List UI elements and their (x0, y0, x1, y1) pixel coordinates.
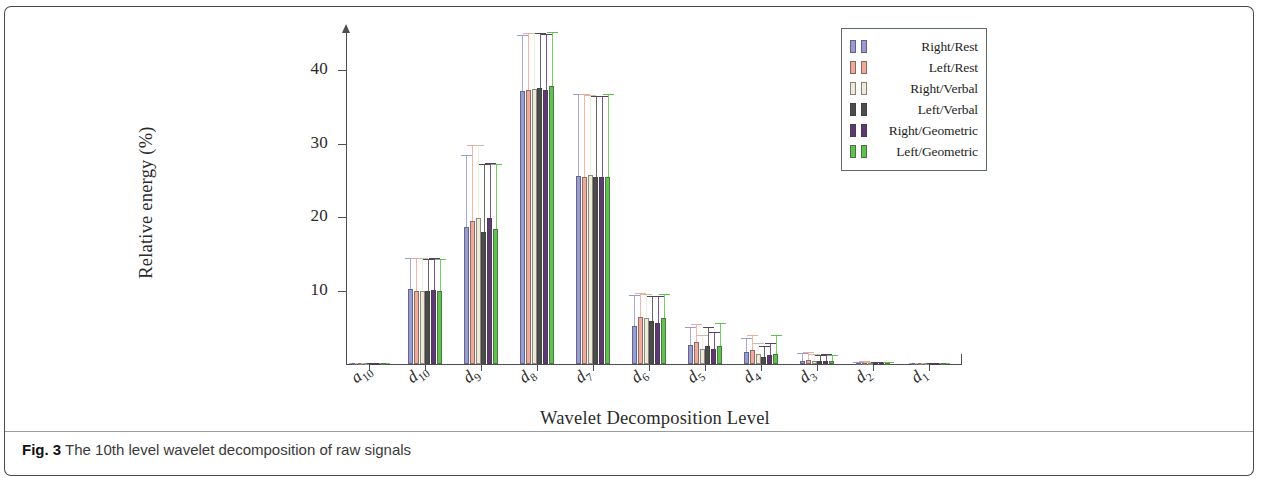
bar-d6-right-verbal (644, 318, 649, 364)
bar-d3-left-rest (806, 360, 811, 364)
error-bar-cap (691, 324, 702, 325)
x-axis-category-label: d7 (571, 363, 595, 389)
bar-d5-right-geometric (711, 349, 716, 364)
legend-swatch (861, 145, 867, 158)
bar-d6-left-geometric (661, 318, 666, 364)
x-axis-category-label: d9 (459, 363, 483, 389)
error-bar-cap (597, 96, 608, 97)
bar-d5-left-rest (694, 342, 699, 364)
wavelet-energy-chart: 10203040 Relative energy (%) Wavelet Dec… (0, 0, 1261, 430)
bar-d4-left-rest (750, 350, 755, 364)
error-bar-cap (741, 338, 752, 339)
y-axis-tick (338, 70, 346, 71)
error-bar-cap (517, 35, 528, 36)
legend-swatch (861, 124, 867, 137)
legend-label: Right/Rest (876, 39, 978, 55)
y-axis-tick-label: 40 (288, 59, 328, 79)
bar-d2-right-geometric (879, 363, 884, 365)
bar-d3-right-geometric (823, 361, 828, 364)
bar-d8-right-geometric (543, 90, 548, 364)
x-axis-category-label: d8 (515, 363, 539, 389)
error-bar-cap (461, 155, 472, 156)
error-bar-cap (653, 296, 664, 297)
x-axis-category-label: d4 (739, 363, 763, 389)
bar-d8-left-verbal (537, 88, 542, 364)
error-bar-cap (765, 343, 776, 344)
error-bar-cap (547, 32, 558, 33)
legend-swatch-pair (850, 103, 876, 116)
bar-d10-left-geometric (437, 291, 442, 365)
legend-item-left-geometric: Left/Geometric (850, 141, 978, 162)
legend-swatch-pair (850, 145, 876, 158)
figure-caption: Fig. 3 The 10th level wavelet decomposit… (22, 441, 411, 458)
x-axis-tick (593, 364, 594, 371)
legend-label: Left/Geometric (876, 144, 978, 160)
bar-d7-right-rest (576, 176, 581, 364)
x-axis-tick (705, 364, 706, 371)
x-axis-category-label: d3 (795, 363, 819, 389)
bar-d2-left-geometric (885, 363, 890, 365)
figure-page: 10203040 Relative energy (%) Wavelet Dec… (0, 0, 1261, 478)
bar-d5-left-verbal (705, 346, 710, 364)
bar-d4-right-verbal (756, 354, 761, 364)
bar-d7-right-verbal (588, 175, 593, 364)
bar-d9-left-rest (470, 221, 475, 364)
legend-swatch (850, 40, 856, 53)
bar-d6-left-rest (638, 317, 643, 364)
y-axis-title: Relative energy (%) (136, 53, 157, 353)
legend-swatch (850, 103, 856, 116)
error-bar-cap (541, 34, 552, 35)
error-bar-cap (473, 145, 484, 146)
x-axis-tick (761, 364, 762, 371)
legend-swatch (861, 82, 867, 95)
error-bar-cap (697, 335, 708, 336)
legend-label: Right/Geometric (876, 123, 978, 139)
legend-item-right-rest: Right/Rest (850, 36, 978, 57)
bar-d9-right-verbal (476, 218, 481, 364)
y-axis-tick (338, 217, 346, 218)
error-bar-cap (629, 295, 640, 296)
bar-d5-right-rest (688, 345, 693, 364)
y-axis-tick-label: 10 (288, 280, 328, 300)
legend-swatch (861, 61, 867, 74)
error-bar-cap (603, 94, 614, 95)
figure-caption-label: Fig. 3 (22, 441, 61, 458)
bar-d10-right-geometric (431, 290, 436, 364)
x-axis-tick (873, 364, 874, 371)
bar-d6-right-geometric (655, 323, 660, 364)
figure-caption-text: The 10th level wavelet decomposition of … (65, 441, 411, 458)
bar-d5-left-geometric (717, 346, 722, 364)
error-bar-cap (685, 327, 696, 328)
bar-d3-right-rest (800, 361, 805, 364)
x-axis-category-label: d1 (907, 363, 931, 389)
legend-swatch-pair (850, 40, 876, 53)
y-axis-tick (338, 144, 346, 145)
legend-item-left-verbal: Left/Verbal (850, 99, 978, 120)
y-axis-line (346, 30, 347, 365)
error-bar-cap (747, 335, 758, 336)
x-axis-tick (649, 364, 650, 371)
legend-swatch (850, 61, 856, 74)
bar-d2-left-rest (862, 363, 867, 365)
bar-d7-left-rest (582, 177, 587, 364)
x-axis-category-label: d6 (627, 363, 651, 389)
bar-d1-left-geometric (941, 363, 946, 365)
bar-d10-left-rest (414, 291, 419, 365)
x-axis-tick (817, 364, 818, 371)
error-bar-cap (435, 259, 446, 260)
bar-d9-right-rest (464, 227, 469, 364)
error-bar-cap (709, 332, 720, 333)
error-bar-cap (753, 343, 764, 344)
bar-d10-right-rest (408, 289, 413, 364)
bar-d8-left-geometric (549, 86, 554, 364)
bar-d8-left-rest (526, 90, 531, 364)
legend-swatch (861, 103, 867, 116)
bar-d10-right-verbal (420, 291, 425, 364)
legend-label: Left/Rest (876, 60, 978, 76)
y-axis-tick (338, 291, 346, 292)
x-axis-tick (481, 364, 482, 371)
error-bar-cap (715, 323, 726, 324)
chart-legend: Right/RestLeft/RestRight/VerbalLeft/Verb… (841, 28, 987, 171)
x-axis-title: Wavelet Decomposition Level (440, 408, 870, 429)
error-bar-cap (659, 294, 670, 295)
